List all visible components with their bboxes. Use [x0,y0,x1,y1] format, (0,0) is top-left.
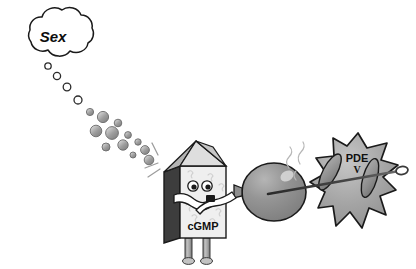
cgmp-legs [183,238,213,264]
pde-enzyme: PDE V [310,133,398,228]
cgmp-leg-right [203,238,210,260]
trail-bubble [114,119,122,127]
trail-bubble [63,83,71,91]
cgmp-foot-left [183,258,195,265]
cgmp-leg-left [185,238,192,260]
trail-bubble [130,152,136,158]
cgmp-body-side [164,166,180,243]
bubble-trail [45,63,154,165]
cgmp-pupil-right [205,184,210,189]
trail-bubble [74,96,82,104]
trail-bubble [102,143,110,151]
trail-bubble [106,127,119,140]
trail-bubble [144,155,154,165]
needle-eye [395,166,408,176]
trail-bubble [141,146,150,155]
trail-bubble [90,125,102,137]
cgmp-character: cGMP [164,141,236,264]
pde-label: PDE [346,152,369,164]
pde-subscript: V [353,164,361,175]
cartoon-figure: Sex [0,0,416,269]
thought-bubble: Sex [29,7,94,56]
trail-bubble [53,72,60,79]
figure-canvas: Sex [0,0,416,269]
trail-bubble [125,132,132,139]
trail-bubble [118,140,128,150]
cgmp-mouth [206,195,215,202]
thought-bubble-label: Sex [40,28,67,45]
cgmp-label: cGMP [187,220,218,232]
trail-bubble [86,108,93,115]
trail-bubble [45,63,51,69]
cgmp-pupil-left [191,184,196,189]
trail-bubble [97,111,108,122]
trail-bubble [135,139,141,145]
cgmp-foot-right [201,258,213,265]
